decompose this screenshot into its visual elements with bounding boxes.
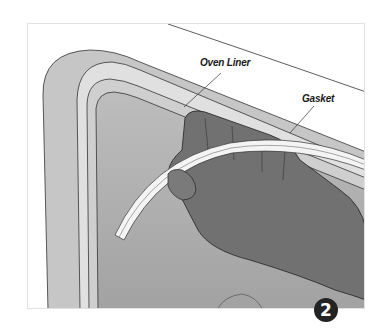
- oven-liner-label: Oven Liner: [200, 57, 250, 68]
- gasket-removal-illustration: [0, 0, 380, 335]
- appliance-edge-line: [168, 24, 366, 92]
- step-number-badge: 2: [314, 298, 338, 322]
- gasket-label: Gasket: [302, 93, 334, 104]
